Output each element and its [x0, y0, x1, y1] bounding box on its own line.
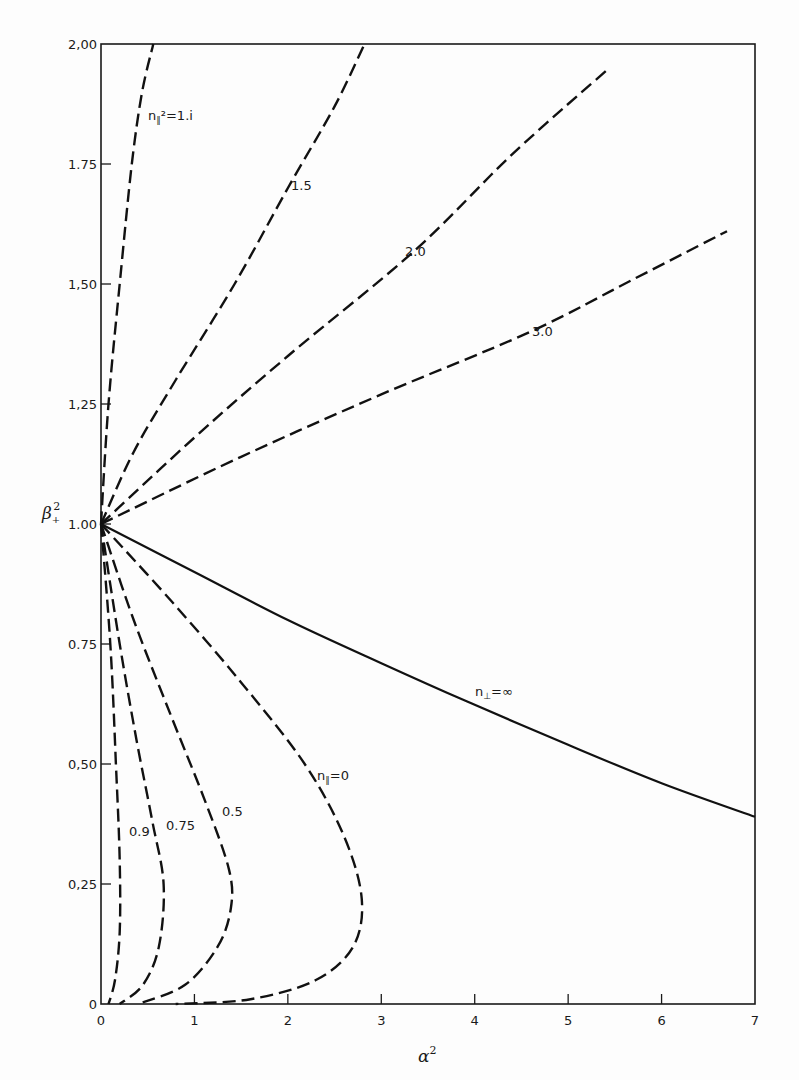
curves	[101, 44, 755, 1004]
curve-label-inf: n⊥=∞	[475, 684, 513, 701]
curve-label-1-5: 1.5	[291, 178, 312, 193]
x-axis-title: α2	[418, 1044, 436, 1066]
curve-line	[101, 524, 362, 1004]
x-tick-label: 2	[284, 1013, 292, 1028]
x-tick-label: 3	[377, 1013, 385, 1028]
y-tick-label: 0	[89, 997, 97, 1012]
curve-label-0: n∥=0	[317, 768, 349, 785]
y-tick-label: 2,00	[68, 37, 97, 52]
x-axis: 01234567	[97, 994, 759, 1028]
curve-label-0-9: 0.9	[129, 824, 150, 839]
curve-line	[101, 231, 727, 524]
x-tick-label: 5	[564, 1013, 572, 1028]
y-tick-label: 1,50	[68, 277, 97, 292]
y-tick-label: 0.75	[68, 637, 97, 652]
curve-label-3-0: 3.0	[532, 324, 553, 339]
chart: 00,250,500.751.001,251,501.752,00 012345…	[0, 0, 799, 1080]
y-tick-label: 1.00	[68, 517, 97, 532]
y-tick-label: 1.75	[68, 157, 97, 172]
curve-line	[101, 68, 609, 524]
x-tick-label: 6	[657, 1013, 665, 1028]
y-tick-label: 1,25	[68, 397, 97, 412]
x-tick-label: 0	[97, 1013, 105, 1028]
y-tick-label: 0,25	[68, 877, 97, 892]
plot-frame	[101, 44, 755, 1004]
y-tick-label: 0,50	[68, 757, 97, 772]
x-tick-label: 4	[471, 1013, 479, 1028]
x-tick-label: 7	[751, 1013, 759, 1028]
y-axis: 00,250,500.751.001,251,501.752,00	[68, 37, 111, 1012]
curve-label-2-0: 2.0	[405, 244, 426, 259]
curve-line	[101, 524, 755, 817]
x-tick-label: 1	[190, 1013, 198, 1028]
curve-label-0-75: 0.75	[166, 818, 195, 833]
y-axis-title: β+2	[41, 500, 60, 525]
curve-label-1-1: n∥²=1.i	[148, 108, 193, 125]
curve-label-0-5: 0.5	[222, 804, 243, 819]
curve-line	[101, 44, 365, 524]
